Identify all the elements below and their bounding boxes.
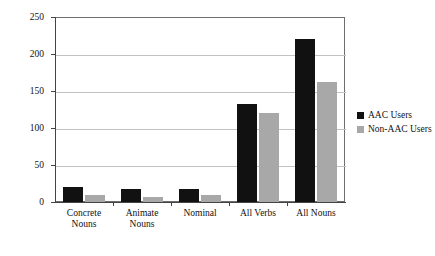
y-axis-tick-label: 200 — [0, 49, 44, 59]
y-axis-tick-mark — [51, 17, 55, 18]
y-axis-tick-mark — [51, 128, 55, 129]
x-axis-tick-mark — [229, 202, 230, 206]
legend-item-label: AAC Users — [368, 108, 412, 122]
x-axis-line — [55, 202, 346, 203]
legend-item-label: Non-AAC Users — [368, 122, 432, 136]
gray-square-swatch-icon — [357, 126, 364, 133]
y-axis-tick-label: 150 — [0, 86, 44, 96]
bar — [237, 104, 257, 202]
bar — [63, 187, 83, 202]
x-axis-category-label: Animate Nouns — [113, 208, 171, 230]
bar — [179, 189, 199, 202]
y-axis-tick-label: 250 — [0, 12, 44, 22]
bar — [259, 113, 279, 202]
y-axis-tick-mark — [51, 165, 55, 166]
bar — [143, 197, 163, 202]
x-axis-tick-mark — [113, 202, 114, 206]
y-axis-tick-mark — [51, 91, 55, 92]
bar — [295, 39, 315, 202]
x-axis-category-label: Concrete Nouns — [55, 208, 113, 230]
y-axis-tick-label: 50 — [0, 160, 44, 170]
y-axis-tick-label: 100 — [0, 123, 44, 133]
bar — [317, 82, 337, 202]
bar-chart: 050100150200250 Concrete NounsAnimate No… — [0, 0, 435, 256]
legend: AAC Users Non-AAC Users — [357, 108, 432, 136]
bar — [201, 195, 221, 202]
x-axis-category-label: Nominal — [171, 208, 229, 219]
black-square-swatch-icon — [357, 112, 364, 119]
x-axis-category-label: All Verbs — [229, 208, 287, 219]
bar — [85, 195, 105, 202]
bar — [121, 189, 141, 202]
x-axis-tick-mark — [287, 202, 288, 206]
x-axis-tick-mark — [171, 202, 172, 206]
y-axis-tick-mark — [51, 202, 55, 203]
y-axis-tick-label: 0 — [0, 197, 44, 207]
x-axis-category-label: All Nouns — [287, 208, 345, 219]
y-axis-line — [55, 17, 56, 203]
legend-item: AAC Users — [357, 108, 432, 122]
y-axis-tick-mark — [51, 54, 55, 55]
legend-item: Non-AAC Users — [357, 122, 432, 136]
